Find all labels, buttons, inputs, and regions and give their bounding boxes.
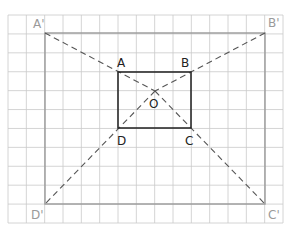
label-o: O (149, 97, 158, 111)
label-c: C (185, 134, 193, 148)
homothety-diagram: A B C D O A' B' C' D' (0, 0, 285, 231)
label-d: D (117, 134, 126, 148)
label-a-prime: A' (33, 17, 45, 31)
grid (8, 15, 283, 223)
label-c-prime: C' (268, 208, 280, 222)
label-b: B (181, 56, 189, 70)
label-a: A (117, 56, 126, 70)
diagram-svg: A B C D O A' B' C' D' (0, 0, 285, 231)
label-b-prime: B' (268, 16, 280, 30)
label-d-prime: D' (31, 208, 44, 222)
